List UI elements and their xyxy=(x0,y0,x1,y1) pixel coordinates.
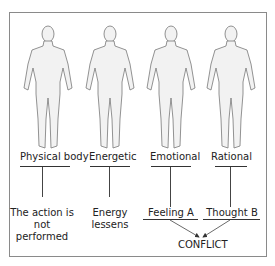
conflict-arrows xyxy=(0,0,275,266)
outcome-conflict: CONFLICT xyxy=(178,239,226,250)
